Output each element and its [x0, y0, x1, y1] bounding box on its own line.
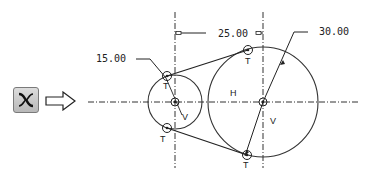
large-circle	[208, 47, 318, 157]
tangent-label: T	[160, 134, 166, 144]
tangent-label: T	[245, 56, 251, 66]
large-radius-leader	[263, 32, 308, 102]
small-radius-dim-line	[166, 78, 182, 115]
small-radius-leader	[136, 59, 166, 78]
centerlines	[88, 12, 358, 168]
tangent-line-tool-button[interactable]	[13, 87, 39, 113]
horizontal-label: H	[230, 88, 237, 98]
large-radius-dim-line	[245, 102, 263, 156]
small-circle	[148, 75, 202, 129]
tangent-marker	[163, 124, 172, 133]
sketch-canvas: 15.00 25.00 30.00 T T T T V V H	[0, 0, 367, 182]
vertical-label: V	[182, 112, 188, 122]
vertical-label: V	[270, 116, 276, 126]
tangent-marker	[243, 151, 252, 160]
upper-tangent-line	[167, 50, 248, 76]
center-distance-dimension: 25.00	[218, 28, 248, 39]
center-marker	[171, 98, 179, 106]
center-marker	[259, 98, 267, 106]
lower-tangent-line	[167, 128, 247, 155]
tangent-marker	[163, 72, 172, 81]
small-radius-dimension: 15.00	[96, 53, 126, 64]
tangent-label: T	[163, 81, 169, 91]
tangent-arc-icon	[14, 88, 38, 112]
tangent-marker	[244, 46, 253, 55]
right-arrow-icon	[45, 91, 77, 111]
large-radius-dimension: 30.00	[319, 26, 349, 37]
tangent-label: T	[243, 160, 249, 170]
